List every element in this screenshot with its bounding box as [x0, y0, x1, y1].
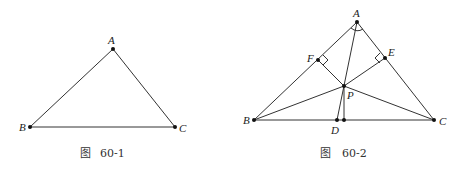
point-p: [342, 84, 346, 88]
right-angle-mark-f: [323, 55, 328, 65]
label-d: D: [330, 124, 339, 136]
label-a: A: [352, 7, 360, 19]
segment-ac: [113, 49, 175, 127]
segment-ab: [254, 22, 357, 120]
label-e: E: [387, 46, 395, 58]
point-b: [252, 118, 256, 122]
caption-prefix: 图: [320, 147, 331, 160]
label-c: C: [439, 115, 447, 127]
point-f: [316, 58, 320, 62]
caption-prefix: 图: [80, 147, 91, 160]
label-b: B: [19, 121, 26, 133]
label-c: C: [179, 122, 187, 134]
geometry-figures: A B C 图 60-1 A B C F E P D 图: [0, 0, 466, 170]
point-a: [111, 47, 115, 51]
angle-arc-a: [351, 28, 363, 31]
point-e: [383, 56, 387, 60]
label-b: B: [243, 114, 250, 126]
segment-pb: [254, 86, 344, 120]
segment-ab: [30, 49, 113, 127]
point-foot: [342, 118, 346, 122]
point-c: [432, 118, 436, 122]
point-d: [335, 118, 339, 122]
point-b: [28, 125, 32, 129]
label-p: P: [346, 89, 354, 101]
caption-number: 60-1: [100, 147, 125, 160]
label-f: F: [306, 52, 314, 64]
caption-number: 60-2: [342, 147, 367, 160]
segment-pf: [318, 60, 344, 86]
figure-60-2: A B C F E P D 图 60-2: [243, 7, 447, 160]
point-c: [173, 125, 177, 129]
point-a: [355, 20, 359, 24]
label-a: A: [107, 34, 115, 46]
figure-60-1: A B C 图 60-1: [19, 34, 187, 160]
segment-ad: [337, 22, 357, 120]
